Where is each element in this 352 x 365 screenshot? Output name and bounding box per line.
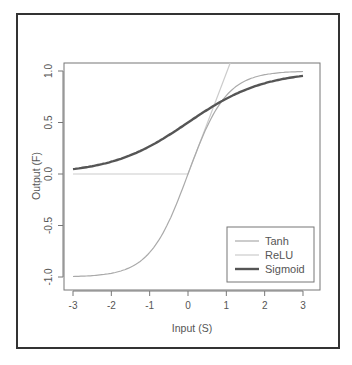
line-chart: -3-2-10123 -1.0-0.50.00.51.0 Input (S) O… (0, 0, 352, 365)
series-relu-line (73, 63, 230, 174)
legend-label-relu: ReLU (265, 249, 293, 261)
series-sigmoid-line (73, 76, 303, 169)
y-tick-label: 0.0 (43, 167, 54, 181)
y-tick-label: -0.5 (43, 216, 54, 234)
y-tick-label: 0.5 (43, 115, 54, 129)
legend-label-sigmoid: Sigmoid (265, 263, 305, 275)
y-axis: -1.0-0.50.00.51.0 (43, 64, 63, 286)
x-axis: -3-2-10123 (69, 291, 307, 311)
y-tick-label: 1.0 (43, 64, 54, 78)
x-tick-label: 0 (185, 300, 191, 311)
legend-label-tanh: Tanh (265, 235, 289, 247)
x-tick-label: 2 (262, 300, 268, 311)
x-tick-label: 3 (300, 300, 306, 311)
y-tick-label: -1.0 (43, 268, 54, 286)
legend: Tanh ReLU Sigmoid (227, 227, 314, 282)
x-tick-label: -2 (107, 300, 116, 311)
x-tick-label: -3 (69, 300, 78, 311)
x-tick-label: -1 (145, 300, 154, 311)
x-tick-label: 1 (224, 300, 230, 311)
y-axis-title: Output (F) (30, 152, 42, 200)
x-axis-title: Input (S) (172, 322, 212, 334)
